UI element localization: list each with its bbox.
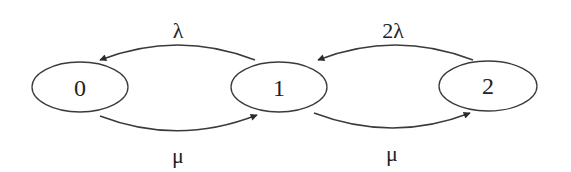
arrow-1-to-2-icon: [314, 113, 470, 128]
arrow-1-to-0-icon: [100, 45, 255, 60]
state-transition-diagram: λ μ 2λ μ 0 1 2: [0, 0, 571, 172]
transition-label-lambda: λ: [173, 18, 184, 43]
arrow-0-to-1-icon: [100, 115, 257, 131]
transition-1-to-0: λ: [100, 18, 255, 61]
state-label-0: 0: [74, 75, 86, 101]
transition-label-mu-left: μ: [172, 143, 184, 168]
state-label-2: 2: [482, 73, 494, 99]
state-node-1: 1: [231, 62, 327, 112]
transition-label-2lambda: 2λ: [382, 18, 404, 43]
transition-1-to-2: μ: [314, 113, 470, 166]
transition-0-to-1: μ: [100, 115, 257, 168]
arrow-2-to-1-icon: [318, 45, 473, 60]
state-node-2: 2: [439, 61, 537, 111]
transition-label-mu-right: μ: [386, 141, 398, 166]
state-node-0: 0: [32, 62, 128, 112]
transition-2-to-1: 2λ: [318, 18, 473, 61]
state-label-1: 1: [273, 75, 285, 101]
